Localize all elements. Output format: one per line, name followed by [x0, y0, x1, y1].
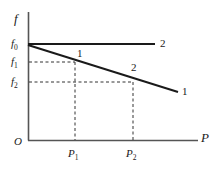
curve-1-line	[28, 45, 178, 92]
x-axis-label: P	[201, 131, 209, 144]
y-tick-f0: f0	[11, 38, 18, 52]
y-axis-label: f	[14, 12, 18, 25]
y-tick-f2-sub: 2	[14, 81, 18, 90]
y-tick-f1-sub: 1	[14, 61, 18, 70]
annotation-first-intersection: 1	[77, 48, 83, 59]
annotation-second-intersection: 2	[131, 62, 137, 73]
y-tick-f2: f2	[11, 76, 18, 90]
x-tick-p1-sub: 1	[75, 153, 79, 162]
x-tick-p2-base: P	[126, 147, 133, 159]
curve-1-end-label: 1	[182, 86, 188, 97]
origin-label: O	[14, 136, 22, 147]
curve-2-end-label: 2	[160, 38, 166, 49]
x-tick-p2-sub: 2	[133, 153, 137, 162]
y-tick-f1: f1	[11, 56, 18, 70]
figure-container: f P O f0 f1 f2 P1 P2 2 1 1 2	[0, 0, 220, 172]
x-tick-p1-base: P	[68, 147, 75, 159]
x-tick-p1: P1	[68, 148, 78, 162]
y-tick-f0-sub: 0	[14, 43, 18, 52]
x-tick-p2: P2	[126, 148, 136, 162]
